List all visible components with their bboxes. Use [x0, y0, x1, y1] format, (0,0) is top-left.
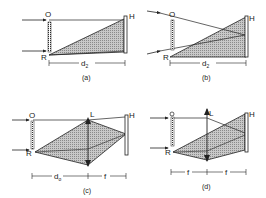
- holography-geometry-figure: O R H d2 (a) O R H d2 (b): [0, 0, 266, 198]
- panel-caption: (b): [202, 74, 211, 82]
- dimension-label: d2: [81, 59, 88, 69]
- dimension-label-do: do: [54, 172, 61, 182]
- object-beam-arrow: [147, 11, 160, 13]
- hologram-label: H: [129, 12, 135, 21]
- hologram-plate: [125, 115, 128, 155]
- lens-label: L: [90, 110, 95, 119]
- panel-caption: (a): [82, 74, 91, 82]
- object-transparency: [31, 121, 34, 149]
- lens-label: L: [209, 109, 214, 118]
- reference-beam-cone: [35, 120, 126, 165]
- panel-d: R L H f f (d): [150, 108, 255, 191]
- panel-b: O R H d2 (b): [147, 10, 255, 82]
- reference-label: R: [26, 149, 32, 158]
- hologram-plate: [124, 16, 127, 53]
- dimension-label-f2: f: [225, 168, 228, 177]
- object-label: O: [45, 10, 51, 19]
- reference-beam-cone: [173, 114, 245, 160]
- reference-beam-cone: [49, 19, 124, 55]
- object-transparency: [171, 20, 174, 50]
- reference-beam-arrow: [147, 51, 160, 54]
- panel-c: O R L H do f (c): [12, 110, 135, 195]
- object-label: O: [29, 111, 35, 120]
- reference-label: R: [165, 148, 171, 157]
- hologram-plate: [245, 16, 248, 57]
- reference-label: R: [41, 53, 47, 62]
- panel-caption: (c): [83, 187, 91, 195]
- hologram-label: H: [129, 111, 135, 120]
- object-transparency: [171, 117, 174, 146]
- object-label: O: [169, 10, 175, 19]
- dimension-label-f1: f: [187, 168, 190, 177]
- dimension-label-f: f: [104, 172, 107, 181]
- object-transparency: [48, 22, 51, 52]
- panel-a: O R H d2 (a): [22, 10, 135, 82]
- hologram-label: H: [249, 14, 255, 23]
- dimension-label: d2: [202, 59, 209, 69]
- hologram-label: H: [249, 110, 255, 119]
- panel-caption: (d): [202, 183, 211, 191]
- reference-label: R: [163, 53, 169, 62]
- hologram-plate: [245, 113, 248, 152]
